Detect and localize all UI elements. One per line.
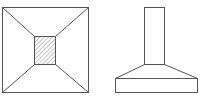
diagonal-top-left (3, 8, 35, 37)
plan-view (3, 8, 89, 93)
footing-taper (116, 65, 198, 79)
diagonal-bottom-right (56, 65, 89, 93)
column (145, 8, 165, 65)
footing-diagram (0, 0, 203, 102)
diagonal-bottom-left (3, 65, 35, 93)
elevation-view (116, 8, 198, 93)
footing-base (116, 79, 198, 93)
diagonal-top-right (56, 8, 89, 37)
column-section-hatched (35, 37, 56, 65)
